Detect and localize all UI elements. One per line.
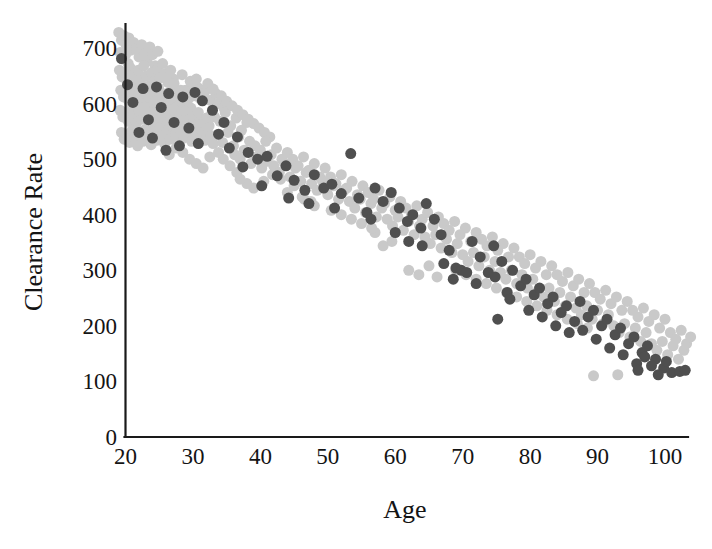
- plot-canvas: 2030405060708090100 01002003004005006007…: [0, 0, 712, 549]
- data-point: [237, 161, 248, 172]
- data-point: [660, 314, 671, 325]
- data-point: [633, 365, 644, 376]
- data-point: [309, 169, 320, 180]
- data-point: [193, 138, 204, 149]
- data-point: [403, 236, 414, 247]
- data-point: [198, 163, 209, 174]
- y-tick-label: 600: [83, 92, 118, 117]
- data-point: [591, 334, 602, 345]
- data-point: [303, 198, 314, 209]
- y-tick-label: 300: [83, 258, 118, 283]
- data-point: [657, 336, 668, 347]
- light-series-points: [113, 27, 696, 381]
- data-point: [525, 249, 536, 260]
- data-point: [329, 203, 340, 214]
- data-point: [152, 46, 163, 57]
- data-point: [252, 154, 263, 165]
- data-point: [639, 351, 650, 362]
- data-point: [461, 267, 472, 278]
- data-point: [365, 214, 376, 225]
- data-point: [127, 97, 138, 108]
- y-tick-label: 700: [83, 36, 118, 61]
- data-point: [448, 274, 459, 285]
- y-tick-label: 200: [83, 314, 118, 339]
- data-point: [438, 258, 449, 269]
- y-axis-title: Clearance Rate: [19, 153, 48, 311]
- data-point: [498, 238, 509, 249]
- data-point: [680, 365, 691, 376]
- data-point: [174, 140, 185, 151]
- scatter-plot-figure: 2030405060708090100 01002003004005006007…: [0, 0, 712, 549]
- data-point: [602, 314, 613, 325]
- data-point: [537, 311, 548, 322]
- data-point: [336, 169, 347, 180]
- data-point: [685, 331, 696, 342]
- data-point: [488, 240, 499, 251]
- data-point: [481, 278, 492, 289]
- data-point: [641, 327, 652, 338]
- data-point: [169, 78, 180, 89]
- data-point: [163, 88, 174, 99]
- data-point: [299, 185, 310, 196]
- data-point: [147, 133, 158, 144]
- data-point: [436, 229, 447, 240]
- data-point: [676, 325, 687, 336]
- data-point: [336, 188, 347, 199]
- data-point: [653, 369, 664, 380]
- y-tick-label: 100: [83, 369, 118, 394]
- x-tick-label: 20: [114, 444, 137, 469]
- data-point: [156, 102, 167, 113]
- data-point: [490, 271, 501, 282]
- x-axis-title: Age: [383, 495, 426, 524]
- data-point: [432, 271, 443, 282]
- data-point: [143, 114, 154, 125]
- data-point: [309, 158, 320, 169]
- data-point: [271, 143, 282, 154]
- x-tick-label: 90: [586, 444, 609, 469]
- data-point: [151, 81, 162, 92]
- y-tick-label: 0: [106, 425, 118, 450]
- data-point: [548, 291, 559, 302]
- data-point: [298, 151, 309, 162]
- data-point: [612, 369, 623, 380]
- data-point: [642, 340, 653, 351]
- data-point: [262, 151, 273, 162]
- data-point: [561, 300, 572, 311]
- data-point: [256, 180, 267, 191]
- x-tick-label: 50: [316, 444, 339, 469]
- data-point: [628, 331, 639, 342]
- data-point: [160, 145, 171, 156]
- data-point: [394, 203, 405, 214]
- data-point: [386, 187, 397, 198]
- data-point: [415, 223, 426, 234]
- data-point: [347, 176, 358, 187]
- data-point: [353, 193, 364, 204]
- data-point: [471, 278, 482, 289]
- data-point: [562, 267, 573, 278]
- data-point: [413, 269, 424, 280]
- data-point: [444, 245, 455, 256]
- data-point: [417, 240, 428, 251]
- data-point: [492, 314, 503, 325]
- data-point: [218, 117, 229, 128]
- data-point: [283, 193, 294, 204]
- data-point: [207, 105, 218, 116]
- data-point: [507, 265, 518, 276]
- y-tick-labels: 0100200300400500600700: [83, 36, 118, 450]
- x-tick-label: 70: [451, 444, 474, 469]
- x-tick-labels: 2030405060708090100: [114, 444, 682, 469]
- data-point: [535, 256, 546, 267]
- data-point: [618, 349, 629, 360]
- data-point: [177, 91, 188, 102]
- data-point: [223, 127, 234, 138]
- data-point: [661, 356, 672, 367]
- data-point: [345, 148, 356, 159]
- data-point: [390, 227, 401, 238]
- data-point: [370, 183, 381, 194]
- data-point: [564, 327, 575, 338]
- data-point: [573, 274, 584, 285]
- data-point: [224, 143, 235, 154]
- data-point: [588, 305, 599, 316]
- data-point: [197, 95, 208, 106]
- data-point: [575, 296, 586, 307]
